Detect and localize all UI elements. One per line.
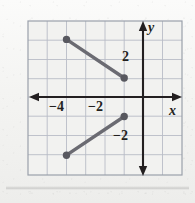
x-axis-tick-label-minus-4: −4 (49, 100, 64, 114)
x-axis-tick-label-minus-2: −2 (88, 100, 103, 114)
lower-segment-right-endpoint (121, 113, 128, 120)
y-axis-name-label: y (148, 21, 154, 35)
y-axis-tick-label-2: 2 (122, 50, 129, 64)
upper-segment-right-endpoint (121, 74, 128, 81)
x-axis-name-label: x (169, 104, 176, 118)
upper-segment-left-endpoint (63, 36, 70, 43)
graph-figure: 2 −2 −4 −2 y x (0, 0, 195, 203)
lower-segment-left-endpoint (63, 152, 70, 159)
y-axis-tick-label-minus-2: −2 (113, 129, 128, 143)
